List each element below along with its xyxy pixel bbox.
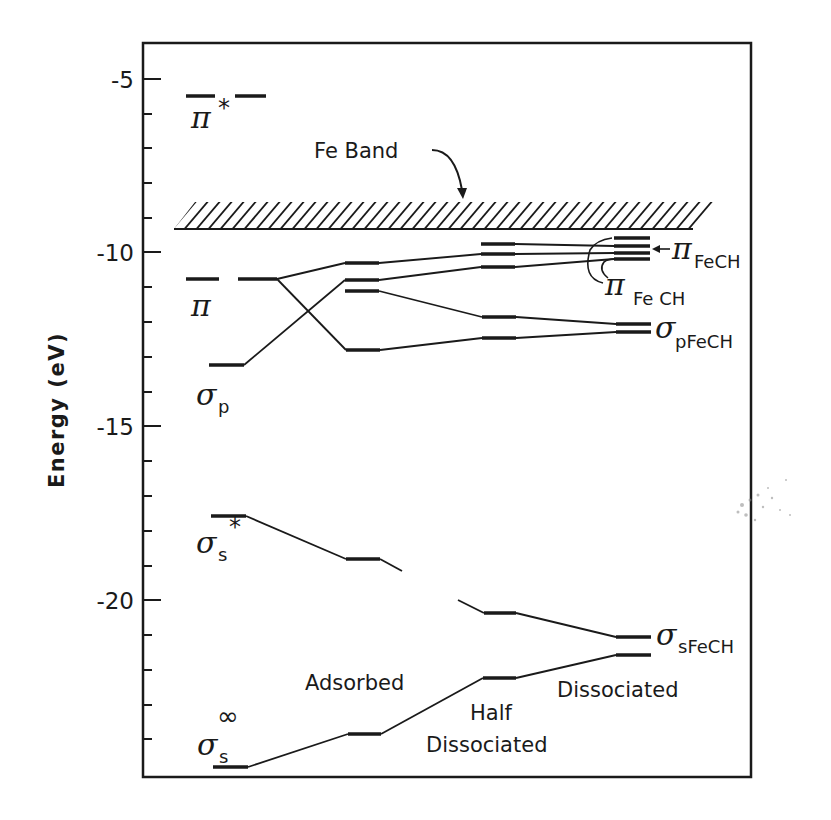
plot-frame — [143, 43, 751, 777]
state-label-half: Half — [470, 701, 512, 725]
state-label-adsorbed: Adsorbed — [305, 671, 404, 695]
label-sigma-p-sub: p — [218, 396, 229, 417]
label-sigma-sfech: σ — [656, 617, 678, 652]
energy-level-diagram: -5 -10 -15 -20 Energy (eV) — [0, 0, 831, 820]
fe-band — [170, 199, 714, 232]
label-sigma-s-star-sub: s — [218, 544, 227, 565]
label-sigma-pfech: σ — [655, 310, 677, 345]
label-sigma-s-star-sup: * — [229, 513, 241, 541]
scan-smudge — [737, 479, 792, 521]
label-sigma-p: σ — [196, 377, 218, 412]
label-pi: π — [190, 288, 212, 323]
y-tick-label: -20 — [96, 588, 134, 614]
y-axis-ticks — [143, 79, 161, 739]
y-tick-label: -5 — [111, 67, 134, 93]
energy-levels — [186, 96, 651, 767]
state-label-half-dissociated: Dissociated — [426, 733, 547, 757]
label-sigma-s-sub: s — [219, 746, 228, 767]
arrowhead-icon — [457, 188, 467, 199]
label-sigma-s-sup: ∞ — [217, 701, 239, 731]
y-axis-title: Energy (eV) — [45, 332, 69, 488]
fe-band-arrow — [432, 150, 462, 190]
label-pi-fech-lower: π — [604, 267, 626, 302]
state-label-dissociated: Dissociated — [557, 678, 678, 702]
label-pi-star: π — [190, 100, 212, 135]
label-pi-star-sup: * — [218, 94, 230, 122]
label-sigma-s: σ — [197, 727, 219, 762]
label-sigma-sfech-sub: sFeCH — [678, 636, 734, 657]
label-pi-fech-upper-sub: FeCH — [694, 251, 741, 272]
fe-band-label: Fe Band — [314, 139, 398, 163]
label-sigma-s-star: σ — [196, 525, 218, 560]
arrowhead-icon — [652, 245, 660, 253]
label-sigma-pfech-sub: pFeCH — [675, 331, 733, 352]
label-pi-fech-lower-sub: Fe CH — [633, 288, 685, 309]
y-tick-label: -10 — [96, 240, 134, 266]
label-pi-fech-upper: π — [671, 231, 693, 266]
y-tick-label: -15 — [96, 414, 134, 440]
